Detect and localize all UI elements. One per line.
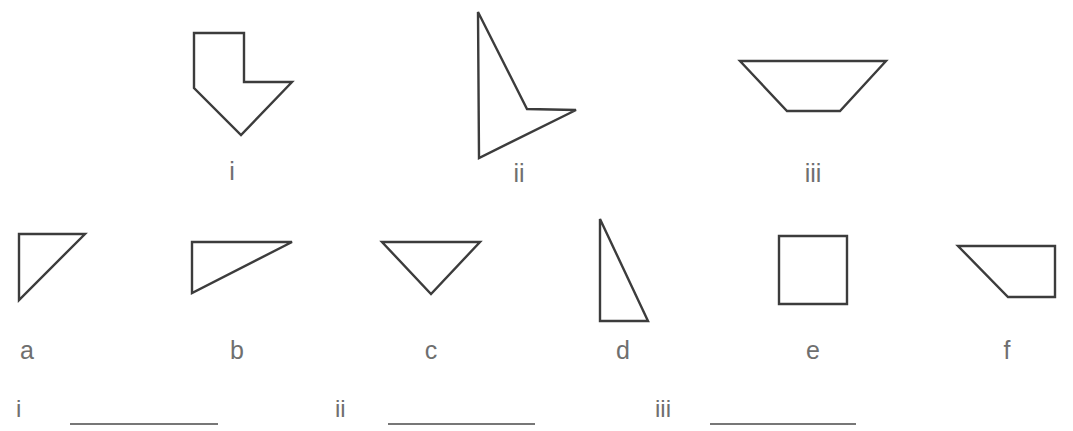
figure-d-label: d <box>616 336 630 364</box>
figure-a-label: a <box>20 336 34 364</box>
figure-d-shape[interactable] <box>600 219 648 321</box>
figure-i-label: i <box>229 157 235 185</box>
worksheet-page: i ii iii a b c d e f i ii <box>0 0 1073 431</box>
worksheet-canvas: i ii iii a b c d e f i ii <box>0 0 1073 431</box>
answer-row: i ii iii <box>16 395 856 424</box>
figure-ii-shape[interactable] <box>478 12 576 158</box>
figure-b-shape[interactable] <box>192 242 292 293</box>
answer-iii-label: iii <box>655 395 671 422</box>
answer-i-label: i <box>16 395 21 422</box>
bottom-row-figures: a b c d e f <box>19 219 1055 364</box>
figure-b-label: b <box>230 336 244 364</box>
figure-e-label: e <box>806 336 820 364</box>
figure-i-shape[interactable] <box>194 33 292 135</box>
figure-a-shape[interactable] <box>19 234 85 300</box>
figure-f-shape[interactable] <box>958 246 1055 297</box>
figure-c-label: c <box>425 336 438 364</box>
answer-ii-label: ii <box>335 395 346 422</box>
figure-iii-shape[interactable] <box>740 61 886 111</box>
figure-ii-label: ii <box>513 159 524 187</box>
figure-f-label: f <box>1004 336 1011 364</box>
top-row-figures: i ii iii <box>194 12 886 187</box>
figure-c-shape[interactable] <box>382 242 480 294</box>
figure-e-shape[interactable] <box>779 236 847 304</box>
figure-iii-label: iii <box>805 159 822 187</box>
